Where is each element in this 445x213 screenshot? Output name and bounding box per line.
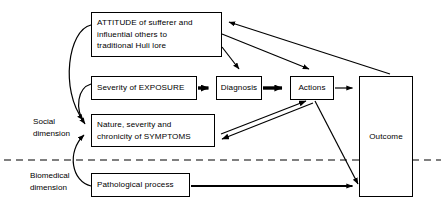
label-social-dimension: Social dimension xyxy=(33,116,70,139)
node-actions[interactable]: Actions xyxy=(290,76,334,100)
node-diagnosis[interactable]: Diagnosis xyxy=(216,76,262,100)
node-diagnosis-label: Diagnosis xyxy=(221,82,257,94)
node-symptoms[interactable]: Nature, severity and chronicity of SYMPT… xyxy=(91,114,215,147)
edge-actions-to-symptoms-lower xyxy=(222,103,313,139)
edge-outcome-to-attitude xyxy=(229,22,390,74)
node-pathological-process-label: Pathological process xyxy=(97,179,174,191)
edge-exposure-to-symptoms xyxy=(79,84,91,124)
node-pathological-process[interactable]: Pathological process xyxy=(91,173,190,197)
node-actions-label: Actions xyxy=(298,82,325,94)
node-severity-of-exposure-label: Severity of EXPOSURE xyxy=(97,82,184,94)
diagram-canvas: ATTITUDE of sufferer and influential oth… xyxy=(0,0,445,213)
node-outcome-label: Outcome xyxy=(369,131,403,143)
label-biomedical-dimension: Biomedical dimension xyxy=(30,170,70,193)
edge-symptoms-to-actions-upper xyxy=(221,101,306,134)
edge-attitude-to-diagnosis xyxy=(222,47,239,69)
node-attitude[interactable]: ATTITUDE of sufferer and influential oth… xyxy=(91,12,222,57)
node-severity-of-exposure[interactable]: Severity of EXPOSURE xyxy=(91,76,197,100)
node-attitude-label: ATTITUDE of sufferer and influential oth… xyxy=(97,17,193,52)
node-symptoms-label: Nature, severity and chronicity of SYMPT… xyxy=(97,119,191,142)
edge-attitude-to-symptoms xyxy=(69,25,91,120)
edge-actions-to-outcome-lower xyxy=(315,101,358,184)
node-outcome[interactable]: Outcome xyxy=(359,76,413,197)
